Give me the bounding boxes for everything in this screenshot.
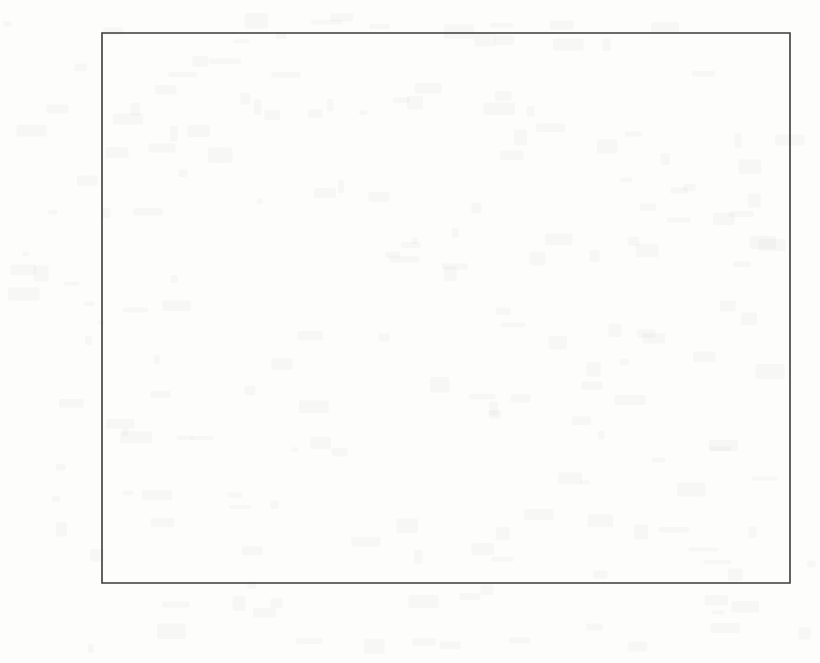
noise-speck <box>168 72 197 77</box>
noise-speck <box>113 113 144 125</box>
noise-speck <box>150 391 170 398</box>
noise-speck <box>314 188 336 198</box>
noise-speck <box>154 354 160 364</box>
noise-speck <box>296 638 323 644</box>
noise-speck <box>628 641 647 651</box>
noise-speck <box>527 106 535 117</box>
noise-speck <box>755 364 785 379</box>
noise-speck <box>84 301 95 306</box>
noise-speck <box>190 436 214 440</box>
noise-speck <box>157 624 186 639</box>
noise-speck <box>48 210 58 215</box>
noise-speck <box>444 24 474 38</box>
noise-speck <box>408 595 439 608</box>
noise-speck <box>120 431 152 443</box>
plot-frame <box>102 33 790 583</box>
noise-speck <box>401 242 421 248</box>
noise-speck <box>85 336 92 345</box>
noise-speck <box>74 64 87 72</box>
noise-speck <box>338 180 344 193</box>
noise-speck <box>123 307 148 312</box>
noise-speck <box>634 525 648 540</box>
noise-speck <box>233 596 246 611</box>
noise-speck <box>728 568 743 581</box>
noise-speck <box>233 39 249 43</box>
noise-speck <box>77 176 98 186</box>
noise-speck <box>414 550 423 564</box>
noise-speck <box>264 110 280 120</box>
noise-speck <box>558 472 582 484</box>
noise-speck <box>229 505 251 509</box>
noise-speck <box>3 21 12 26</box>
noise-speck <box>155 85 177 95</box>
noise-speck <box>545 233 573 245</box>
noise-speck <box>59 399 84 408</box>
noise-speck <box>52 496 61 503</box>
noise-speck <box>412 638 436 646</box>
noise-speck <box>748 194 761 208</box>
noise-speck <box>677 483 705 497</box>
noise-speck <box>192 56 208 67</box>
noise-speck <box>378 334 390 342</box>
noise-speck <box>271 72 301 78</box>
noise-speck <box>640 203 656 211</box>
noise-speck <box>471 202 481 213</box>
noise-speck <box>620 177 632 182</box>
noise-speck <box>170 126 178 142</box>
noise-speck <box>430 377 450 393</box>
noise-speck <box>442 263 468 270</box>
noise-speck <box>271 358 292 370</box>
noise-speck <box>240 93 250 105</box>
noise-speck <box>474 33 496 46</box>
noise-speck <box>459 593 480 600</box>
noise-speck <box>270 598 282 608</box>
noise-speck <box>396 519 418 533</box>
noise-speck <box>703 560 731 565</box>
noise-speck <box>369 24 390 29</box>
noise-speck <box>8 287 40 300</box>
noise-speck <box>496 308 511 315</box>
noise-speck <box>148 143 175 152</box>
noise-speck <box>602 39 610 52</box>
noise-speck <box>22 252 29 257</box>
noise-speck <box>735 133 742 148</box>
noise-speck <box>530 252 546 266</box>
noise-speck <box>162 602 190 608</box>
noise-speck <box>208 147 233 163</box>
chart-figure <box>0 0 820 663</box>
noise-speck <box>10 264 36 275</box>
noise-speck <box>586 362 600 377</box>
noise-speck <box>56 464 66 471</box>
noise-speck <box>88 644 94 653</box>
noise-speck <box>102 208 111 218</box>
noise-speck <box>412 237 418 244</box>
noise-speck <box>64 282 80 286</box>
noise-speck <box>550 21 574 30</box>
noise-speck <box>179 169 188 177</box>
noise-speck <box>651 22 679 34</box>
noise-speck <box>524 509 554 520</box>
noise-speck <box>620 359 629 365</box>
noise-speck <box>597 139 618 153</box>
noise-speck <box>509 638 531 644</box>
noise-speck <box>741 313 757 326</box>
noise-speck <box>495 35 514 45</box>
noise-speck <box>652 457 666 462</box>
noise-speck <box>705 595 729 605</box>
noise-speck <box>364 639 385 654</box>
noise-speck <box>496 527 510 540</box>
noise-speck <box>291 447 298 452</box>
noise-speck <box>807 560 816 567</box>
noise-speck <box>711 610 725 614</box>
noise-speck <box>553 39 584 51</box>
noise-speck <box>731 601 759 613</box>
noise-speck <box>16 125 46 137</box>
noise-speck <box>142 490 173 500</box>
noise-speck <box>33 266 48 282</box>
noise-speck <box>749 526 757 538</box>
noise-speck <box>614 395 645 405</box>
noise-speck <box>759 239 786 251</box>
noise-speck <box>415 83 442 94</box>
noise-speck <box>588 514 614 527</box>
noise-speck <box>297 331 323 340</box>
